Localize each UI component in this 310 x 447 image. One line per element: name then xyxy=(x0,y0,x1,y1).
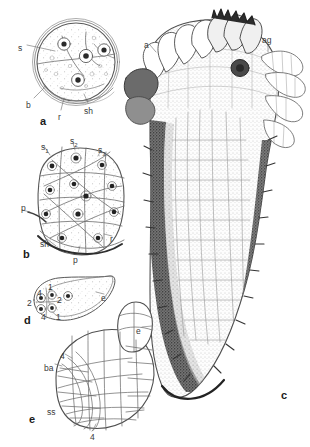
label-b-s3-sub: 3 xyxy=(102,151,105,157)
label-a-s: s xyxy=(18,44,22,53)
label-e-ss: ss xyxy=(47,408,56,417)
label-b-s1: s1 xyxy=(41,143,49,154)
label-d-2-left: 2 xyxy=(27,299,32,308)
panel-letter-e: e xyxy=(29,414,35,425)
panel-letter-c: c xyxy=(281,390,287,401)
panel-letter-a: a xyxy=(40,116,46,127)
label-c-ag: ag xyxy=(262,36,271,45)
panel-letter-b: b xyxy=(23,249,30,260)
label-b-s2-sub: 2 xyxy=(74,142,77,148)
label-e-4-upper: 4 xyxy=(60,352,65,361)
panel-a-drawing xyxy=(27,19,120,111)
label-d-1-upper: 1 xyxy=(48,283,53,292)
label-c-a: a xyxy=(144,41,149,50)
label-a-sh: sh xyxy=(84,107,93,116)
label-b-s1-sub: 1 xyxy=(45,148,48,154)
label-d-2-center: 2 xyxy=(57,296,62,305)
figure-plate: a b c d e s b r sh s1 s2 s3 p sh p r a a… xyxy=(0,0,310,447)
panel-b-drawing xyxy=(22,143,124,255)
label-e-ba: ba xyxy=(44,364,53,373)
label-d-4-lower: 4 xyxy=(41,313,46,322)
plate-drawing xyxy=(0,0,310,447)
label-b-s2: s2 xyxy=(70,137,78,148)
label-b-r: r xyxy=(110,235,113,244)
label-d-e: e xyxy=(101,294,106,303)
panel-e-drawing xyxy=(55,302,154,431)
label-e-4-lower: 4 xyxy=(90,433,95,442)
label-b-sh: sh xyxy=(40,240,49,249)
label-d-1-lower: 1 xyxy=(56,313,61,322)
label-d-4-upper: 4 xyxy=(37,289,42,298)
panel-c-drawing xyxy=(124,9,305,399)
panel-letter-d: d xyxy=(24,315,31,326)
label-e-e: e xyxy=(136,327,141,336)
label-b-p-left: p xyxy=(21,204,26,213)
label-b-p-bottom: p xyxy=(73,256,78,265)
label-a-r: r xyxy=(58,113,61,122)
label-b-s3: s3 xyxy=(98,146,106,157)
label-a-b: b xyxy=(26,101,31,110)
